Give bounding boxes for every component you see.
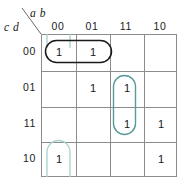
cell-r11-c10[interactable]: 1 <box>144 107 178 143</box>
column-header-1: 01 <box>75 20 109 32</box>
cell-r11-c00[interactable] <box>42 107 76 143</box>
column-header-2: 11 <box>109 20 143 32</box>
cell-r11-c11[interactable]: 1 <box>110 107 144 143</box>
row-header-0: 00 <box>6 34 36 68</box>
row-header-2: 11 <box>6 106 36 140</box>
cell-r00-c10[interactable] <box>144 35 178 71</box>
cell-r01-c11[interactable]: 1 <box>110 71 144 107</box>
cell-r01-c10[interactable] <box>144 71 178 107</box>
cell-r11-c01[interactable] <box>76 107 110 143</box>
cell-r10-c10[interactable]: 1 <box>144 142 178 178</box>
cell-r00-c01[interactable]: 1 <box>76 35 110 71</box>
row-header-1: 01 <box>6 70 36 104</box>
column-header-0: 00 <box>41 20 75 32</box>
row-header-3: 10 <box>6 141 36 175</box>
row-axis-label: c d <box>4 21 19 33</box>
cell-r01-c01[interactable]: 1 <box>76 71 110 107</box>
cell-r00-c11[interactable] <box>110 35 144 71</box>
karnaugh-map: a b c d 00 01 11 10 00 01 11 10 1 1 1 1 … <box>0 0 184 182</box>
kmap-grid: 1 1 1 1 1 1 1 1 <box>41 34 177 177</box>
cell-r10-c11[interactable] <box>110 142 144 178</box>
column-axis-label: a b <box>30 7 46 19</box>
cell-r00-c00[interactable]: 1 <box>42 35 76 71</box>
cell-r10-c01[interactable] <box>76 142 110 178</box>
cell-r01-c00[interactable] <box>42 71 76 107</box>
column-header-3: 10 <box>143 20 177 32</box>
cell-r10-c00[interactable]: 1 <box>42 142 76 178</box>
